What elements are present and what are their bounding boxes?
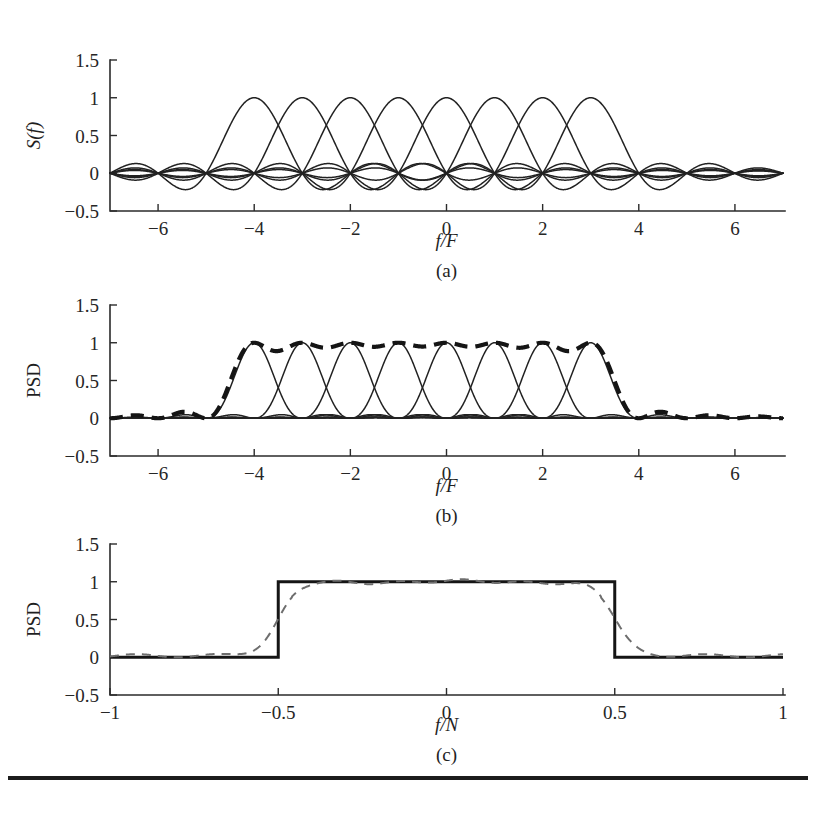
axis-spines <box>110 544 785 695</box>
x-tick-label: −4 <box>244 218 265 239</box>
y-tick-label: 1.5 <box>75 295 99 316</box>
y-tick-label: 0 <box>90 647 100 668</box>
y-axis-title: PSD <box>23 602 44 637</box>
y-tick-label: 0.5 <box>75 126 99 147</box>
y-tick-label: 0.5 <box>75 371 99 392</box>
curve-subcarrier--2 <box>110 343 783 419</box>
curve-subcarrier-0 <box>110 343 783 419</box>
x-axis-title: f/N <box>435 714 460 735</box>
y-tick-label: 1.5 <box>75 50 99 71</box>
x-tick-label: −0.5 <box>261 702 295 723</box>
curve-subcarrier--4 <box>110 343 783 419</box>
y-tick-label: 0.5 <box>75 610 99 631</box>
x-tick-label: 2 <box>538 218 548 239</box>
panel-c: −0.500.511.5−1−0.500.51PSDf/N(c) <box>0 480 816 780</box>
y-tick-label: 1 <box>90 333 100 354</box>
x-tick-label: −2 <box>340 218 360 239</box>
curve-ideal-rect-psd <box>110 582 783 658</box>
x-tick-label: 0.5 <box>603 702 627 723</box>
axis-spines <box>110 305 785 456</box>
y-axis-title: PSD <box>23 363 44 398</box>
y-tick-label: 1 <box>90 88 100 109</box>
figure-root: −0.500.511.5−6−4−20246S(f)f/F(a) −0.500.… <box>0 0 816 817</box>
y-tick-label: −0.5 <box>65 685 99 706</box>
axis-spines <box>110 60 785 211</box>
y-tick-label: 1 <box>90 572 100 593</box>
x-tick-label: 1 <box>778 702 788 723</box>
curve-simulated-psd <box>110 579 783 657</box>
x-tick-label: −6 <box>148 218 168 239</box>
page-separator-rule <box>8 776 808 780</box>
x-tick-label: 6 <box>730 218 740 239</box>
curve-subcarrier-1 <box>110 343 783 419</box>
curve-subcarrier--1 <box>110 343 783 419</box>
y-tick-label: −0.5 <box>65 446 99 467</box>
y-tick-label: −0.5 <box>65 201 99 222</box>
y-tick-label: 1.5 <box>75 534 99 555</box>
y-tick-label: 0 <box>90 163 100 184</box>
x-tick-label: 4 <box>634 218 644 239</box>
curve-subcarrier-3 <box>110 343 783 419</box>
plot-c: −0.500.511.5−1−0.500.51PSDf/N(c) <box>0 480 816 780</box>
y-tick-label: 0 <box>90 408 100 429</box>
panel-caption: (c) <box>436 744 457 766</box>
curve-subcarrier--3 <box>110 343 783 419</box>
curve-subcarrier-2 <box>110 343 783 419</box>
curve-total-psd-envelope <box>110 343 783 419</box>
x-tick-label: −1 <box>100 702 120 723</box>
y-axis-title: S(f) <box>23 122 45 149</box>
